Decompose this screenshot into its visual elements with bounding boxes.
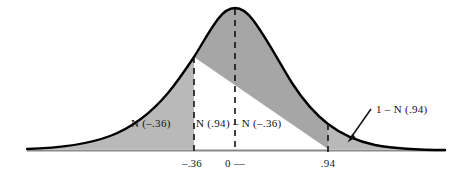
axis-tick-label-neg036: –.36 <box>174 157 210 169</box>
annotation-arrow-icon <box>348 109 372 143</box>
region-label-middle-band: N (.94) – N (–.36) <box>196 117 281 129</box>
normal-distribution-figure: N (–.36) N (.94) – N (–.36) 1 – N (.94) … <box>0 0 469 189</box>
axis-tick-label-zero: 0 — <box>217 157 253 169</box>
region-label-left-tail: N (–.36) <box>131 117 171 129</box>
region-label-right-tail: 1 – N (.94) <box>376 103 428 115</box>
axis-tick-label-094: .94 <box>310 157 346 169</box>
